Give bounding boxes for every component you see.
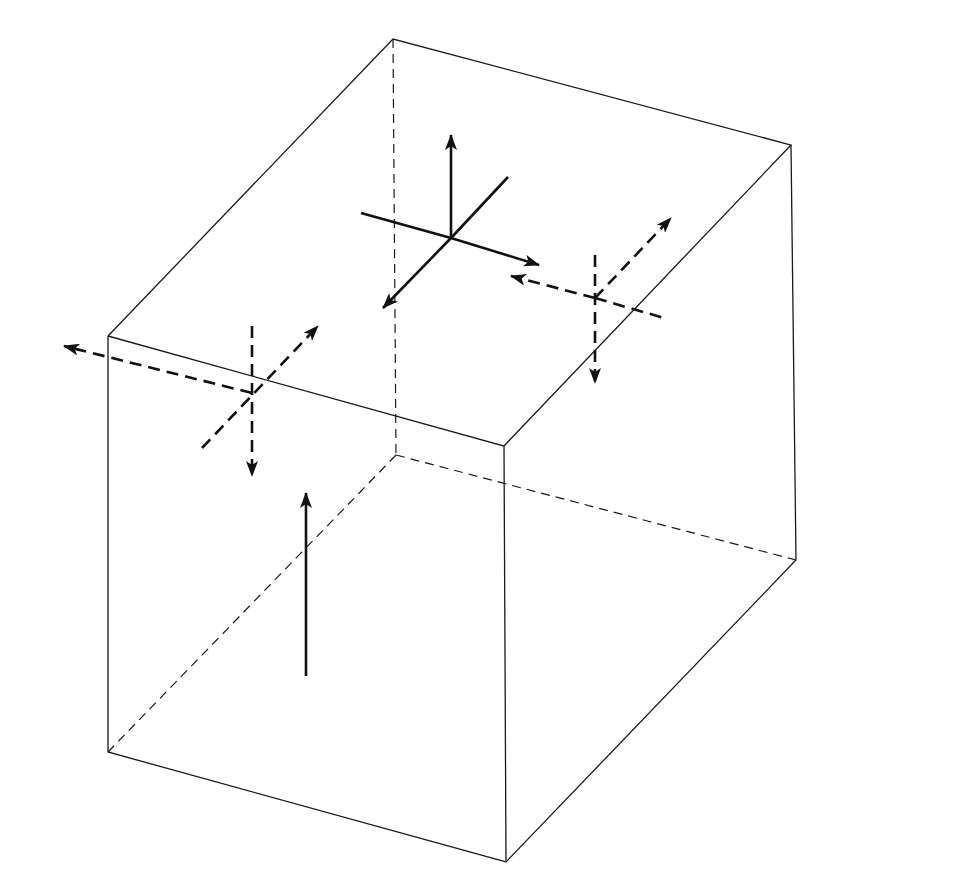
cube-hidden-bottom-back-edge	[396, 455, 796, 560]
tau-xy-left-arrow	[202, 326, 318, 448]
sigma-y-left-arrow	[64, 346, 252, 393]
cube-right-edges	[506, 145, 796, 862]
tau-xz-top-arrow	[383, 238, 451, 308]
top-face-stress-group	[361, 135, 539, 308]
back-face-x-stress-group	[511, 218, 671, 383]
top-x-axis-line	[451, 177, 508, 238]
cube-hidden-bottom-left-edge	[108, 455, 396, 752]
tau-yz-top-arrow	[451, 238, 539, 265]
tau-xy-back-arrow	[511, 276, 595, 298]
cube-top-edges	[108, 39, 791, 446]
stress-element-diagram	[0, 0, 969, 891]
left-face-y-stress-group	[64, 326, 318, 476]
sigma-x-back-arrow	[595, 218, 671, 298]
cube-hidden-vertical-edge	[393, 39, 396, 455]
top-y-axis-line	[361, 213, 451, 238]
